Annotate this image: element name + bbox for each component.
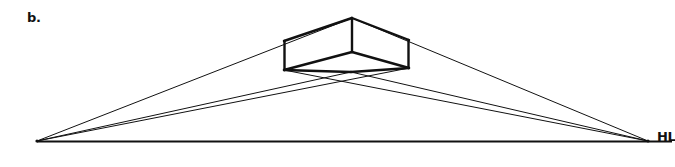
horizon-line-label: HL	[657, 130, 675, 143]
left-vanishing-point	[35, 139, 38, 142]
panel-label: b.	[27, 11, 41, 24]
right-vanishing-point	[646, 139, 649, 142]
